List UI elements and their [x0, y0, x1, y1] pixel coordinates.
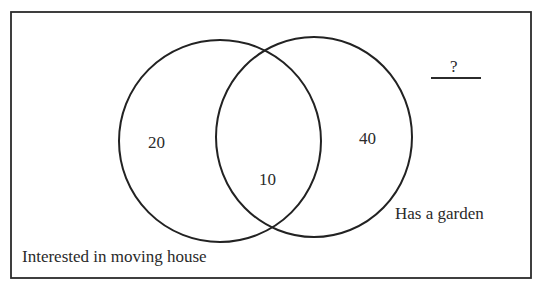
venn-diagram: 20 10 40 ? Has a garden Interested in mo… — [0, 0, 543, 291]
set-circle-garden — [216, 37, 412, 237]
outside-region-unknown: ? — [450, 57, 458, 76]
region-garden-only-count: 40 — [359, 129, 376, 148]
set-label-garden: Has a garden — [395, 204, 484, 223]
region-moving-house-only-count: 20 — [148, 133, 165, 152]
set-label-moving-house: Interested in moving house — [22, 247, 207, 266]
region-intersection-count: 10 — [259, 170, 276, 189]
universal-set-frame — [11, 12, 531, 278]
